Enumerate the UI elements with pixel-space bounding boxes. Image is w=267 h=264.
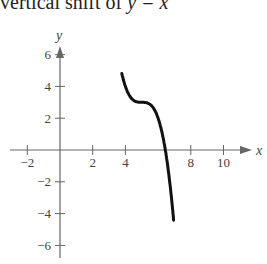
function-curve	[122, 73, 174, 220]
x-tick-label: 10	[217, 155, 230, 170]
x-tick-label: 2	[89, 155, 96, 170]
y-tick-label: 2	[45, 111, 52, 126]
y-axis-arrow-icon	[56, 46, 64, 58]
x-axis-label: x	[255, 143, 263, 158]
y-tick-label: −4	[37, 206, 51, 221]
y-tick-label: −6	[37, 238, 51, 253]
x-tick-label: −2	[20, 155, 34, 170]
axes	[10, 46, 252, 258]
x-tick-label: 4	[122, 155, 129, 170]
y-tick-label: 6	[45, 47, 52, 62]
chart: −224810642−2−4−6 x y	[0, 0, 267, 264]
y-axis-label: y	[54, 28, 63, 43]
y-tick-label: −2	[37, 174, 51, 189]
y-tick-label: 4	[45, 79, 52, 94]
x-tick-label: 8	[188, 155, 195, 170]
x-axis-arrow-icon	[240, 146, 252, 154]
